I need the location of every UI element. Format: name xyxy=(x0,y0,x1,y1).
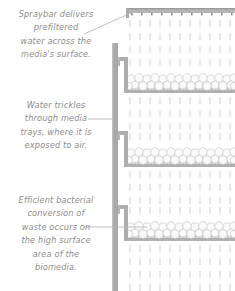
trickle-caption: Water trickles through media trays, wher… xyxy=(4,99,108,153)
vertical-wall xyxy=(112,43,118,291)
spraybar-caption: Spraybar delivers prefiltered water acro… xyxy=(4,8,108,62)
spraybar xyxy=(126,8,235,18)
bacteria-caption: Efficient bacterial conversion of waste … xyxy=(2,194,110,274)
media-tray-2 xyxy=(116,131,235,167)
media-tray-3 xyxy=(116,205,235,241)
diagram-page: Spraybar delivers prefiltered water acro… xyxy=(0,0,235,291)
media-tray-1 xyxy=(116,57,235,93)
